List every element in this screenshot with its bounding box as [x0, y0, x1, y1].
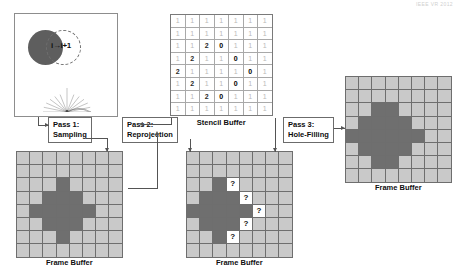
pass-1-line2: Sampling — [53, 130, 87, 140]
frame-buffer-middle-cell — [266, 244, 278, 256]
frame-buffer-middle-cell — [240, 152, 252, 164]
frame-buffer-left-cell — [96, 178, 108, 190]
stencil-cell: 1 — [200, 53, 214, 65]
frame-buffer-middle-cell — [240, 231, 252, 243]
frame-buffer-middle-cell — [213, 192, 225, 204]
stencil-cell: 1 — [258, 28, 272, 40]
stencil-cell: 0 — [229, 53, 243, 65]
frame-buffer-middle-cell — [240, 192, 252, 204]
arrowhead-pass3-to-fbright — [341, 126, 345, 130]
frame-buffer-left-cell — [43, 165, 55, 177]
scene-panel: i→i+1 — [14, 13, 118, 117]
frame-buffer-right-cell — [359, 117, 371, 129]
stencil-cell: 1 — [258, 40, 272, 52]
frame-buffer-middle-cell — [200, 231, 212, 243]
frame-buffer-right-cell — [438, 156, 450, 168]
frame-buffer-right-cell — [346, 90, 358, 102]
frame-buffer-right-cell — [359, 90, 371, 102]
stencil-cell: 1 — [171, 78, 185, 90]
frame-buffer-left-cell — [70, 152, 82, 164]
frame-buffer-right-cell — [425, 169, 437, 181]
frame-buffer-left-cell — [30, 192, 42, 204]
frame-buffer-right-cell — [425, 130, 437, 142]
frame-buffer-right-cell — [438, 169, 450, 181]
frame-buffer-left-cell — [17, 192, 29, 204]
frame-buffer-left-cell — [109, 152, 121, 164]
frame-buffer-middle-cell — [187, 165, 199, 177]
frame-buffer-left-cell — [43, 178, 55, 190]
stencil-buffer-block: 1111111111111111201111211011211110112110… — [170, 14, 273, 116]
stencil-cell: 2 — [186, 53, 200, 65]
frame-buffer-middle-cell — [279, 165, 291, 177]
frame-buffer-left-cell — [17, 178, 29, 190]
pass-3-box[interactable]: Pass 3: Hole-Filling — [283, 117, 334, 143]
frame-buffer-left-cell — [109, 178, 121, 190]
stencil-cell: 1 — [258, 15, 272, 27]
frame-buffer-middle-cell — [187, 192, 199, 204]
frame-buffer-right-cell — [438, 103, 450, 115]
frame-buffer-right-cell — [359, 130, 371, 142]
frame-buffer-left-cell — [57, 218, 69, 230]
frame-buffer-middle-cell — [200, 178, 212, 190]
stencil-cell: 1 — [215, 53, 229, 65]
frame-buffer-left-cell — [30, 165, 42, 177]
frame-buffer-middle-cell — [213, 244, 225, 256]
frame-buffer-left-cell — [30, 178, 42, 190]
frame-buffer-left-cell — [43, 152, 55, 164]
frame-buffer-right-cell — [386, 90, 398, 102]
frame-buffer-right-cell — [425, 103, 437, 115]
stencil-cell: 1 — [258, 65, 272, 77]
stencil-cell: 1 — [171, 40, 185, 52]
frame-buffer-middle-cell — [187, 244, 199, 256]
frame-buffer-middle-cell — [200, 205, 212, 217]
arrowhead-pass1-to-fbleft — [105, 148, 109, 152]
stencil-cell: 1 — [200, 78, 214, 90]
frame-buffer-right-cell — [386, 169, 398, 181]
frame-buffer-left-cell — [70, 218, 82, 230]
frame-buffer-middle-cell — [227, 244, 239, 256]
stencil-cell: 1 — [215, 78, 229, 90]
frame-buffer-right-cell — [386, 103, 398, 115]
stencil-cell: 2 — [171, 65, 185, 77]
frame-buffer-left-cell — [30, 152, 42, 164]
frame-buffer-middle-cell — [266, 205, 278, 217]
arrowhead-stencil-to-pass2 — [139, 122, 143, 126]
frame-buffer-left-cell — [17, 231, 29, 243]
frame-buffer-middle-cell — [213, 205, 225, 217]
stencil-buffer-grid: 1111111111111111201111211011211110112110… — [170, 14, 273, 116]
frame-buffer-left-cell — [109, 231, 121, 243]
frame-buffer-right-cell — [412, 117, 424, 129]
frame-buffer-left-cell — [57, 205, 69, 217]
frame-buffer-right-cell — [372, 90, 384, 102]
stencil-cell: 0 — [244, 65, 258, 77]
frame-buffer-right-cell — [412, 156, 424, 168]
frame-buffer-right-cell — [372, 130, 384, 142]
arrowhead-fbleft-to-pass2 — [155, 131, 159, 135]
frame-buffer-middle-cell — [200, 244, 212, 256]
frame-buffer-left-cell — [43, 218, 55, 230]
frame-buffer-middle-cell — [253, 205, 265, 217]
stencil-cell: 1 — [215, 28, 229, 40]
frame-buffer-right-cell — [359, 169, 371, 181]
frame-buffer-middle-cell — [253, 218, 265, 230]
frame-buffer-left-cell — [83, 165, 95, 177]
diagram-canvas: IEEE VR 2012 i→i+1 — [0, 0, 459, 279]
frame-buffer-middle-cell — [266, 165, 278, 177]
frame-buffer-left-cell — [57, 244, 69, 256]
frame-buffer-left-cell — [17, 165, 29, 177]
frame-buffer-right-cell — [359, 77, 371, 89]
stencil-cell: 1 — [244, 53, 258, 65]
pass-1-box[interactable]: Pass 1: Sampling — [48, 117, 92, 143]
frame-buffer-right-cell — [346, 143, 358, 155]
frame-buffer-left-cell — [96, 231, 108, 243]
frame-buffer-middle-cell — [279, 218, 291, 230]
frame-buffer-middle-cell — [240, 205, 252, 217]
pass-3-line2: Hole-Filling — [288, 130, 329, 140]
frame-buffer-left-cell — [83, 218, 95, 230]
frame-buffer-middle-cell — [187, 152, 199, 164]
frame-buffer-right-grid — [345, 76, 452, 183]
frame-buffer-right-cell — [386, 156, 398, 168]
frame-buffer-right-cell — [359, 156, 371, 168]
frame-buffer-left-cell — [96, 205, 108, 217]
frame-buffer-right-cell — [425, 90, 437, 102]
